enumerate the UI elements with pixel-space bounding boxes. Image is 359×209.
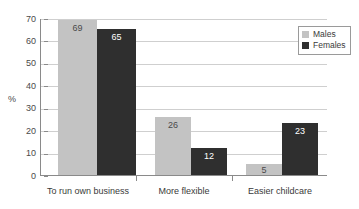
legend-swatch-females-icon	[302, 42, 309, 49]
bar-males-easier-childcare: 5	[246, 164, 282, 175]
y-tick-mark-40	[44, 86, 48, 87]
bar-females-easier-childcare: 23	[282, 123, 318, 175]
y-tick-label-20: 20	[14, 127, 36, 136]
bar-value-label: 12	[191, 151, 227, 161]
legend-item-females: Females	[302, 40, 346, 51]
y-tick-mark-60	[44, 41, 48, 42]
legend-label-males: Males	[313, 30, 336, 39]
plot-area: 69 65 26 12 5 23	[40, 19, 327, 176]
y-tick-mark-50	[44, 64, 48, 65]
y-tick-label-60: 60	[14, 37, 36, 46]
legend-swatch-males-icon	[302, 31, 309, 38]
y-tick-mark-30	[44, 109, 48, 110]
legend-item-males: Males	[302, 29, 346, 40]
y-axis-title: %	[8, 95, 16, 104]
bar-value-label: 65	[97, 32, 136, 42]
x-axis-label-more-flexible: More flexible	[136, 186, 232, 197]
bar-males-more-flexible: 26	[155, 117, 191, 175]
y-tick-label-70: 70	[14, 15, 36, 24]
y-tick-label-30: 30	[14, 104, 36, 113]
bar-chart: 69 65 26 12 5 23 70 60 50 40 30 20 10 0	[0, 0, 359, 209]
y-tick-label-10: 10	[14, 149, 36, 158]
y-tick-mark-10	[44, 154, 48, 155]
bar-value-label: 26	[155, 120, 191, 130]
bar-value-label: 69	[58, 23, 97, 33]
bar-females-to-run-own-business: 65	[97, 29, 136, 175]
legend: Males Females	[298, 26, 351, 55]
bar-females-more-flexible: 12	[191, 148, 227, 175]
legend-label-females: Females	[313, 41, 346, 50]
x-axis-label-to-run-own-business: To run own business	[40, 186, 136, 197]
y-tick-label-50: 50	[14, 59, 36, 68]
y-axis: 70 60 50 40 30 20 10 0	[8, 0, 36, 209]
y-tick-mark-70	[44, 19, 48, 20]
x-axis-label-easier-childcare: Easier childcare	[232, 186, 328, 197]
y-tick-label-40: 40	[14, 82, 36, 91]
bar-value-label: 23	[282, 126, 318, 136]
y-tick-mark-20	[44, 131, 48, 132]
x-axis-separator-2	[232, 176, 233, 181]
x-axis-separator-1	[136, 176, 137, 181]
y-tick-mark-0	[44, 176, 48, 177]
y-tick-label-0: 0	[14, 172, 36, 181]
bar-males-to-run-own-business: 69	[58, 20, 97, 175]
bar-value-label: 5	[246, 165, 282, 175]
